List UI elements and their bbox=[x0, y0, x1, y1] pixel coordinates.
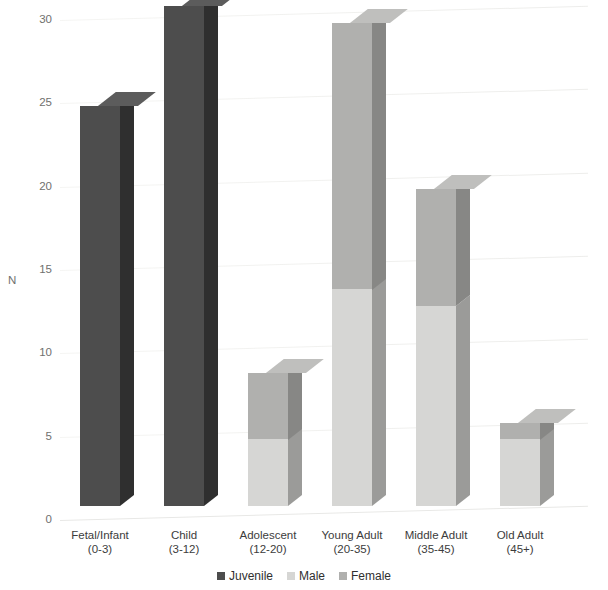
bar-face-front bbox=[332, 289, 372, 506]
category-label-range: (0-3) bbox=[58, 542, 142, 556]
category-label: Old Adult(45+) bbox=[478, 528, 562, 556]
bar-segment-female[interactable] bbox=[332, 23, 372, 290]
bar-face-front bbox=[500, 423, 540, 440]
y-tick-label: 25 bbox=[18, 97, 52, 109]
y-tick-label: 20 bbox=[18, 181, 52, 193]
category-label-name: Adolescent bbox=[240, 529, 297, 541]
bar-face-side bbox=[120, 95, 134, 506]
legend-label: Male bbox=[299, 570, 325, 582]
legend-label: Juvenile bbox=[229, 570, 273, 582]
legend-item[interactable]: Juvenile bbox=[217, 570, 273, 582]
category-label-range: (35-45) bbox=[394, 542, 478, 556]
y-axis-title: N bbox=[8, 275, 16, 287]
y-tick-label: 5 bbox=[18, 431, 52, 443]
legend-item[interactable]: Female bbox=[339, 570, 391, 582]
bar-segment-male[interactable] bbox=[500, 439, 540, 506]
bar-group[interactable] bbox=[164, 20, 204, 520]
legend-swatch-icon bbox=[339, 572, 347, 580]
category-label-range: (12-20) bbox=[226, 542, 310, 556]
bar-face-side bbox=[204, 0, 218, 506]
bar-segment-female[interactable] bbox=[248, 373, 288, 440]
bar-face-front bbox=[416, 189, 456, 306]
bar-segment-male[interactable] bbox=[248, 439, 288, 506]
category-label-range: (3-12) bbox=[142, 542, 226, 556]
bar-face-top bbox=[98, 92, 156, 106]
legend-swatch-icon bbox=[217, 572, 225, 580]
category-label: Middle Adult(35-45) bbox=[394, 528, 478, 556]
bar-face-front bbox=[500, 439, 540, 506]
bar-face-front bbox=[248, 373, 288, 440]
bar-face-front bbox=[248, 439, 288, 506]
y-tick-label: 0 bbox=[18, 514, 52, 526]
category-label-range: (45+) bbox=[478, 542, 562, 556]
category-label-name: Middle Adult bbox=[405, 529, 468, 541]
category-label: Young Adult(20-35) bbox=[310, 528, 394, 556]
category-label-name: Child bbox=[171, 529, 197, 541]
chart-container: N 302520151050 Fetal/Infant(0-3)Child(3-… bbox=[0, 0, 608, 590]
category-label: Child(3-12) bbox=[142, 528, 226, 556]
bar-group[interactable] bbox=[500, 20, 540, 520]
bar-face-side bbox=[456, 178, 470, 306]
bar-face-front bbox=[80, 106, 120, 506]
y-tick-label: 10 bbox=[18, 347, 52, 359]
bar-face-side bbox=[288, 362, 302, 440]
gridline bbox=[60, 6, 588, 21]
bar-segment-female[interactable] bbox=[500, 423, 540, 440]
bar-face-side bbox=[288, 428, 302, 506]
bar-face-side bbox=[540, 428, 554, 506]
plot-area bbox=[60, 20, 588, 520]
bar-face-side bbox=[372, 12, 386, 290]
bar-face-top bbox=[182, 0, 240, 6]
bar-segment-female[interactable] bbox=[416, 189, 456, 306]
category-label-range: (20-35) bbox=[310, 542, 394, 556]
bar-face-top bbox=[434, 175, 492, 189]
bar-group[interactable] bbox=[416, 20, 456, 520]
bar-group[interactable] bbox=[332, 20, 372, 520]
bar-group[interactable] bbox=[248, 20, 288, 520]
category-label-name: Fetal/Infant bbox=[71, 529, 129, 541]
bar-face-top bbox=[518, 409, 576, 423]
bar-face-side bbox=[372, 278, 386, 506]
legend-swatch-icon bbox=[287, 572, 295, 580]
bar-segment-male[interactable] bbox=[332, 289, 372, 506]
category-label-name: Young Adult bbox=[322, 529, 383, 541]
category-label-name: Old Adult bbox=[497, 529, 544, 541]
bar-segment-juvenile[interactable] bbox=[80, 106, 120, 506]
y-tick-label: 30 bbox=[18, 14, 52, 26]
bar-face-front bbox=[164, 6, 204, 506]
bar-face-side bbox=[456, 295, 470, 506]
bar-face-top bbox=[350, 9, 408, 23]
category-label: Adolescent(12-20) bbox=[226, 528, 310, 556]
bar-face-front bbox=[332, 23, 372, 290]
y-tick-label: 15 bbox=[18, 264, 52, 276]
category-label: Fetal/Infant(0-3) bbox=[58, 528, 142, 556]
bar-group[interactable] bbox=[80, 20, 120, 520]
chart-legend: JuvenileMaleFemale bbox=[0, 570, 608, 582]
bar-face-top bbox=[266, 359, 324, 373]
legend-label: Female bbox=[351, 570, 391, 582]
bar-segment-male[interactable] bbox=[416, 306, 456, 506]
bar-face-front bbox=[416, 306, 456, 506]
legend-item[interactable]: Male bbox=[287, 570, 325, 582]
bar-segment-juvenile[interactable] bbox=[164, 6, 204, 506]
